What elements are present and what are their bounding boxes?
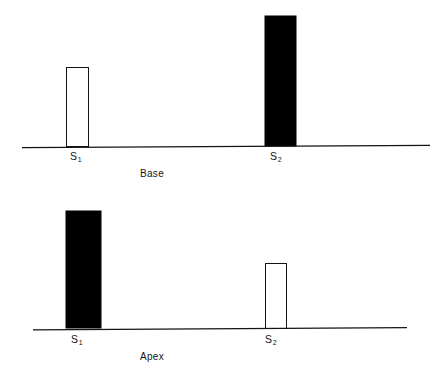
panel-apex: S1 S2 Apex bbox=[0, 192, 443, 384]
apex-bar-s1 bbox=[66, 211, 101, 328]
base-tick-s2-subscript: 2 bbox=[278, 156, 282, 163]
apex-tick-label-s1: S1 bbox=[71, 334, 82, 345]
apex-plot-svg bbox=[0, 192, 443, 384]
bar-diagram-figure: S1 S2 Base S1 S2 Apex bbox=[0, 0, 443, 384]
apex-tick-s1-subscript: 1 bbox=[79, 339, 83, 346]
base-panel-caption: Base bbox=[140, 169, 164, 179]
base-bar-s2 bbox=[265, 16, 296, 146]
apex-tick-s1-text: S bbox=[71, 333, 78, 345]
panel-base: S1 S2 Base bbox=[0, 0, 443, 192]
base-tick-s2-text: S bbox=[270, 150, 277, 162]
base-tick-s1-text: S bbox=[70, 150, 77, 162]
apex-panel-caption: Apex bbox=[140, 352, 164, 362]
apex-tick-s2-subscript: 2 bbox=[273, 339, 277, 346]
apex-bar-s2 bbox=[266, 264, 287, 329]
base-plot-svg bbox=[0, 0, 443, 192]
base-bar-s1 bbox=[67, 68, 89, 147]
base-tick-label-s1: S1 bbox=[70, 151, 81, 162]
base-tick-label-s2: S2 bbox=[270, 151, 281, 162]
apex-tick-s2-text: S bbox=[265, 333, 272, 345]
apex-tick-label-s2: S2 bbox=[265, 334, 276, 345]
base-tick-s1-subscript: 1 bbox=[78, 156, 82, 163]
